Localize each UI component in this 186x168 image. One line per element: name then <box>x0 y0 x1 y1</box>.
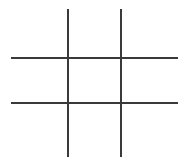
cell-1-0[interactable] <box>11 59 67 102</box>
cell-2-1[interactable] <box>69 104 120 157</box>
tic-tac-toe-board <box>0 0 186 168</box>
cell-0-0[interactable] <box>11 9 67 57</box>
cell-0-1[interactable] <box>69 9 120 57</box>
cell-1-2[interactable] <box>122 59 178 102</box>
cell-2-0[interactable] <box>11 104 67 157</box>
cell-2-2[interactable] <box>122 104 178 157</box>
cell-0-2[interactable] <box>122 9 178 57</box>
cell-1-1[interactable] <box>69 59 120 102</box>
